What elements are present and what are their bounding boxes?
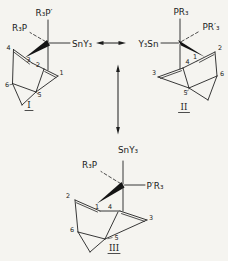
cage-I [13,50,59,106]
ligand-label-right: PR′₃ [203,22,220,32]
ligand-label-right: SnY₃ [72,39,93,49]
ligand-label-top: PR₃ [174,7,189,17]
chemical-scheme-figure: R₃P′ R₃P SnY₃ 4 3 2 1 6 5 I [0,0,228,261]
structure-label-II: II [181,102,188,112]
atom-number: 3 [152,69,156,77]
bond-2-1 [197,52,215,61]
atom-number: 5 [114,234,118,242]
ligand-label-left: R₃P [82,160,97,170]
atom-number: 3 [26,56,30,64]
bond-4-6 [13,50,14,84]
bond-2-6 [215,52,217,76]
bond-2-6 [75,200,78,232]
atom-number: 6 [5,81,9,89]
atom-number: 1 [95,203,99,211]
bond-4-3-double [122,214,145,222]
ligand-label-top: SnY₃ [118,145,139,155]
bond-4-3 [120,211,147,220]
arrowhead-up [116,65,120,73]
double-arrow-horizontal-icon [96,41,126,45]
ligand-label-top: R₃P′ [36,8,53,18]
label-tick [10,84,13,85]
atom-number: 2 [66,192,70,200]
bond-5-3 [158,77,189,88]
arrowhead-left [96,41,104,45]
bond-4-3 [158,68,183,77]
structure-II: PR₃ PR′₃ Y₃Sn 2 1 4 3 6 5 II [137,7,224,113]
ligand-label-left: Y₃Sn [137,39,158,49]
ligand-label-left: R₃P [12,23,27,33]
dashed-bond-to-phosphine-left [30,33,46,42]
dashed-bond-to-phosphine-right [182,32,200,42]
atom-number: 4 [108,203,112,211]
atom-number: 2 [36,61,40,69]
dashed-bond-to-phosphine-left [101,172,121,184]
arrowhead-right [119,41,127,45]
atom-number: 6 [220,70,224,78]
structure-I: R₃P′ R₃P SnY₃ 4 3 2 1 6 5 I [5,8,93,111]
atom-number: 1 [59,69,63,77]
atom-number: 1 [193,53,197,61]
structure-III: SnY₃ R₃P P′R₃ 2 1 4 3 6 5 III [66,145,164,254]
atom-number: 2 [218,44,222,52]
atom-number: 5 [183,89,187,97]
bond-5-4 [183,68,189,88]
atom-number: 3 [149,214,153,222]
arrowhead-down [116,127,120,135]
atom-number: 5 [37,91,41,99]
atom-number: 4 [185,58,189,66]
bond-bridge-5 [90,239,105,252]
wedge-bond-icon [178,40,205,57]
double-arrow-vertical-icon [116,65,120,135]
ligand-label-right: P′R₃ [147,181,164,191]
structure-label-I: I [27,100,30,110]
atom-number: 6 [70,226,74,234]
structure-label-III: III [109,243,119,253]
atom-number: 4 [6,44,10,52]
equilibrium-arrows [96,41,126,134]
wedge-bond-icon [97,182,125,204]
bond-bridge-5 [189,88,208,100]
bond-5-3 [105,220,147,239]
